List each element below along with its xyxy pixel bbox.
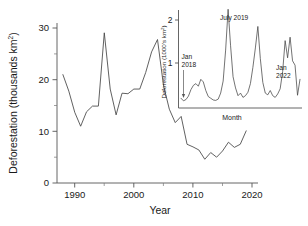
main-xtick-2000: 2000 [123, 189, 144, 200]
svg-text:Deforestation (1000's km2): Deforestation (1000's km2) [160, 25, 167, 98]
inset-ylabel-tail: ) [160, 25, 167, 27]
main-xtick-1990: 1990 [64, 189, 85, 200]
inset-data-line [181, 9, 300, 101]
annotation-jan-2022: Jan 2022 [276, 64, 291, 79]
main-xtick-2010: 2010 [182, 189, 203, 200]
svg-text:Deforestation (thousands km2): Deforestation (thousands km2) [7, 32, 19, 173]
main-ytick-0: 0 [44, 177, 49, 188]
main-x-axis [57, 183, 258, 188]
annotation-jan-2022-line1: Jan [276, 64, 287, 71]
annotation-jan-2018-line1: Jan [182, 53, 193, 60]
main-y-axis [53, 23, 58, 183]
annotation-jan-2018: Jan 2018 [182, 53, 197, 98]
annotation-jan-2018-line2: 2018 [182, 61, 197, 68]
main-y-axis-title: Deforestation (thousands km2) [7, 32, 19, 173]
annotation-jan-2018-arrowhead [182, 94, 185, 98]
main-x-axis-title: Year [149, 204, 171, 216]
inset-ytick-2: 2 [168, 15, 173, 25]
main-ytick-30: 30 [38, 22, 49, 33]
main-ylabel-base: Deforestation (thousands km [7, 39, 19, 173]
main-xtick-2020: 2020 [241, 189, 262, 200]
main-ytick-10: 10 [38, 126, 49, 137]
deforestation-figure: 0 10 20 30 Deforestation (thousands km2)… [0, 0, 308, 226]
inset-ylabel-base: Deforestation (1000's km [160, 30, 167, 99]
main-data-line [63, 33, 246, 159]
main-ylabel-tail: ) [7, 32, 19, 36]
inset-ytick-1: 1 [168, 58, 173, 68]
main-ytick-20: 20 [38, 74, 49, 85]
annotation-july-2019: July 2019 [220, 14, 249, 22]
main-y-tick-labels: 0 10 20 30 [38, 22, 49, 188]
chart-canvas: 0 10 20 30 Deforestation (thousands km2)… [0, 0, 308, 226]
inset-x-axis-title: Month [222, 114, 242, 121]
inset-panel [175, 10, 302, 108]
inset-y-axis-title: Deforestation (1000's km2) [160, 25, 167, 98]
main-x-tick-labels: 1990 2000 2010 2020 [64, 189, 262, 200]
annotation-jan-2022-line2: 2022 [276, 72, 291, 79]
inset-y-tick-labels: 1 2 [168, 15, 173, 68]
